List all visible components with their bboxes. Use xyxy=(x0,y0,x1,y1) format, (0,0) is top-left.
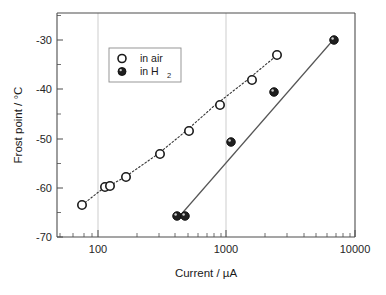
y-tick-label: -70 xyxy=(36,231,52,243)
data-point-in-air xyxy=(156,150,164,158)
chart-figure: -30 -40 -50 -60 -70 100 1000 10000 Curre… xyxy=(0,0,386,295)
data-point-in-h2 xyxy=(270,88,279,97)
legend-marker-filled-circle-icon xyxy=(118,68,126,76)
data-point-in-h2 xyxy=(173,212,182,221)
legend-label-in-h2-main: in H xyxy=(140,65,159,77)
plot-area-background xyxy=(57,13,355,237)
legend-marker-open-circle-icon xyxy=(118,55,126,63)
data-point-in-h2 xyxy=(227,138,236,147)
y-axis-tick-labels: -30 -40 -50 -60 -70 xyxy=(36,34,52,243)
x-tick-label: 10000 xyxy=(340,243,371,255)
frost-point-vs-current-scatter-plot: -30 -40 -50 -60 -70 100 1000 10000 Curre… xyxy=(0,0,386,295)
data-point-in-air xyxy=(216,101,224,109)
x-tick-label: 1000 xyxy=(214,243,238,255)
y-tick-label: -40 xyxy=(36,83,52,95)
data-point-in-h2 xyxy=(330,36,339,45)
legend-label-in-air: in air xyxy=(140,52,163,64)
legend-label-in-h2-subscript: 2 xyxy=(167,71,171,80)
data-point-in-air xyxy=(122,173,130,181)
data-point-in-air xyxy=(273,51,281,59)
y-tick-label: -50 xyxy=(36,133,52,145)
legend-marker-highlight xyxy=(120,69,122,71)
y-tick-label: -30 xyxy=(36,34,52,46)
data-point-in-air xyxy=(185,127,193,135)
data-point-in-air xyxy=(248,76,256,84)
y-axis-title: Frost point / °C xyxy=(12,87,24,164)
x-axis-title: Current / µA xyxy=(175,267,238,279)
x-axis-tick-labels: 100 1000 10000 xyxy=(89,243,370,255)
chart-legend: in air in H 2 xyxy=(109,48,181,82)
data-point-in-air xyxy=(78,201,86,209)
x-tick-label: 100 xyxy=(89,243,107,255)
y-tick-label: -60 xyxy=(36,182,52,194)
data-point-in-air xyxy=(106,182,114,190)
data-point-in-h2 xyxy=(181,212,190,221)
